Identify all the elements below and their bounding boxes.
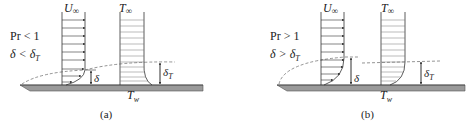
t-infinity-label-a: T∞ (119, 1, 132, 16)
velocity-profile (62, 12, 85, 85)
delta-label-a: δ (94, 72, 100, 84)
temperature-profile (381, 12, 405, 85)
delta-condition-b: δ > δT (270, 47, 300, 63)
caption-b: (b) (361, 108, 374, 121)
boundary-layer-figure: Pr < 1 δ < δT U∞ T∞ δ δT Tw (a) (0, 0, 471, 125)
prandtl-condition-a: Pr < 1 (10, 29, 39, 43)
delta-condition-a: δ < δT (10, 47, 40, 63)
delta-label-b: δ (354, 72, 360, 84)
panel-b: Pr > 1 δ > δT U∞ T∞ δ δT Tw (b) (270, 1, 465, 121)
flat-plate (277, 85, 465, 91)
u-infinity-label-a: U∞ (64, 1, 79, 16)
panel-a: Pr < 1 δ < δT U∞ T∞ δ δT Tw (a) (10, 1, 203, 121)
flat-plate (20, 85, 203, 91)
u-infinity-label-b: U∞ (323, 1, 338, 16)
caption-a: (a) (100, 108, 113, 121)
velocity-boundary-layer-edge (279, 57, 360, 84)
t-infinity-label-b: T∞ (381, 1, 394, 16)
delta-t-label-b: δT (424, 67, 434, 82)
thermal-boundary-layer-edge (85, 62, 175, 70)
temperature-profile (120, 12, 152, 85)
delta-t-label-a: δT (163, 66, 173, 81)
velocity-boundary-layer-edge (22, 70, 85, 84)
velocity-profile (321, 12, 344, 85)
prandtl-condition-b: Pr > 1 (270, 29, 299, 43)
